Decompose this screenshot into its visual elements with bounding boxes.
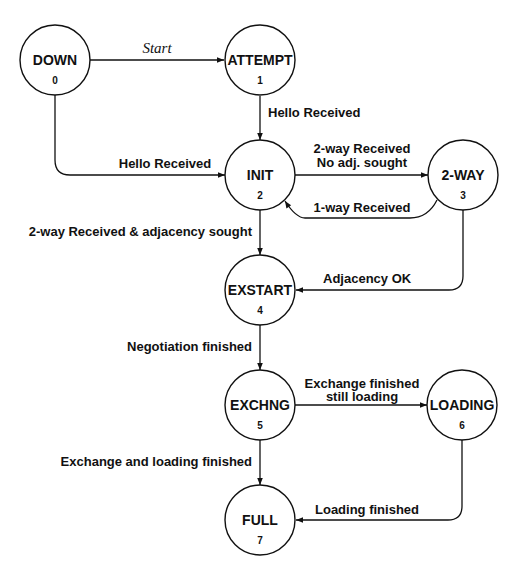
state-node-exchng: EXCHNG 5 — [225, 370, 295, 440]
edge-exstart-to-exchng: Negotiation finished — [127, 325, 260, 370]
state-node-exstart: EXSTART 4 — [225, 255, 295, 325]
state-number-full: 7 — [257, 535, 263, 546]
edge-label-hello-received-attempt: Hello Received — [268, 105, 361, 120]
edge-label-no-adj-sought: No adj. sought — [317, 155, 408, 170]
state-label-exchng: EXCHNG — [230, 397, 290, 413]
ospf-state-diagram: Start Hello Received Hello Received 2-wa… — [0, 0, 516, 577]
edge-label-still-loading: still loading — [326, 389, 398, 404]
edge-2way-to-init: 1-way Received — [285, 200, 437, 218]
edge-2way-to-exstart: Adjacency OK — [296, 210, 463, 290]
state-label-init: INIT — [247, 167, 274, 183]
state-node-2way: 2-WAY 3 — [428, 140, 498, 210]
edge-label-2way-received: 2-way Received — [314, 141, 411, 156]
state-node-down: DOWN 0 — [20, 25, 90, 95]
state-number-init: 2 — [257, 190, 263, 201]
state-number-loading: 6 — [459, 420, 465, 431]
edge-down-to-attempt: Start — [90, 40, 224, 60]
edge-label-negotiation-finished: Negotiation finished — [127, 339, 252, 354]
edge-label-loading-finished: Loading finished — [315, 502, 419, 517]
edge-label-2way-adjacency-sought: 2-way Received & adjacency sought — [29, 224, 253, 239]
state-number-exstart: 4 — [257, 305, 263, 316]
edge-label-1way-received: 1-way Received — [314, 200, 411, 215]
edge-down-to-init: Hello Received — [55, 95, 225, 175]
state-node-init: INIT 2 — [225, 140, 295, 210]
state-node-full: FULL 7 — [225, 485, 295, 555]
state-label-exstart: EXSTART — [228, 282, 293, 298]
state-node-loading: LOADING 6 — [427, 370, 497, 440]
edge-label-start: Start — [142, 40, 172, 56]
edge-exchng-to-loading: Exchange finished still loading — [295, 376, 427, 405]
edge-label-adjacency-ok: Adjacency OK — [323, 271, 412, 286]
state-label-full: FULL — [242, 512, 278, 528]
state-label-attempt: ATTEMPT — [227, 52, 293, 68]
edge-label-hello-received-down: Hello Received — [119, 156, 212, 171]
state-label-2way: 2-WAY — [441, 167, 485, 183]
edge-init-to-exstart: 2-way Received & adjacency sought — [29, 210, 260, 255]
state-number-exchng: 5 — [257, 420, 263, 431]
state-label-down: DOWN — [33, 52, 77, 68]
edge-loading-to-full: Loading finished — [296, 440, 462, 520]
edge-attempt-to-init: Hello Received — [260, 96, 361, 140]
edge-label-exchange-and-loading-finished: Exchange and loading finished — [61, 454, 252, 469]
state-number-attempt: 1 — [257, 75, 263, 86]
state-node-attempt: ATTEMPT 1 — [225, 25, 295, 95]
state-number-2way: 3 — [460, 190, 466, 201]
state-number-down: 0 — [52, 75, 58, 86]
state-label-loading: LOADING — [430, 397, 495, 413]
edge-exchng-to-full: Exchange and loading finished — [61, 440, 260, 485]
edge-init-to-2way: 2-way Received No adj. sought — [295, 141, 428, 175]
